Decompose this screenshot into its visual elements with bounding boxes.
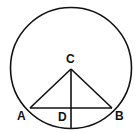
label-d: D	[58, 110, 67, 124]
label-b: B	[115, 109, 124, 123]
label-c: C	[66, 52, 75, 66]
circle-chord-diagram: A B C D	[0, 0, 138, 133]
radius-ca	[30, 69, 71, 108]
label-a: A	[17, 109, 26, 123]
radius-cb	[71, 69, 112, 108]
